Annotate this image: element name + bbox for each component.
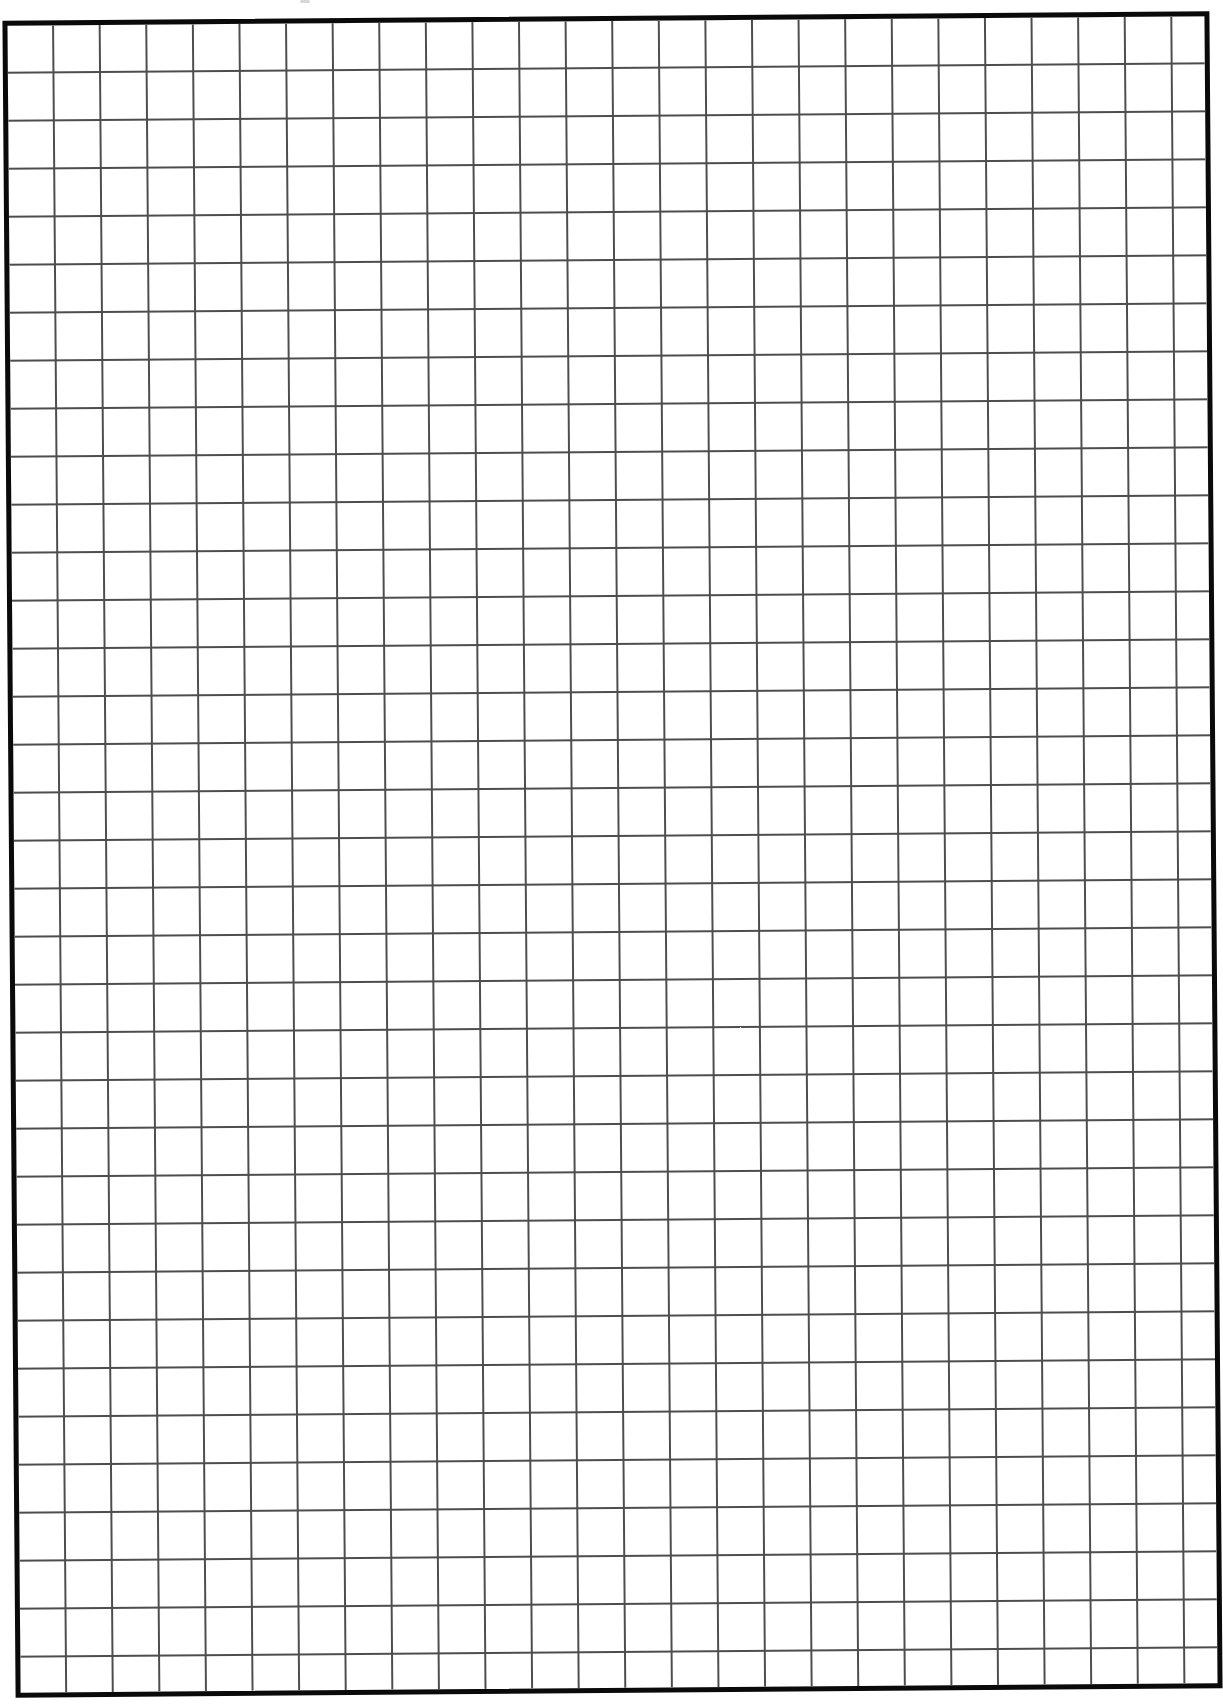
grid-lines	[7, 16, 1217, 1692]
graph-paper-sheet	[2, 11, 1222, 1697]
scan-smudge	[300, 0, 310, 3]
